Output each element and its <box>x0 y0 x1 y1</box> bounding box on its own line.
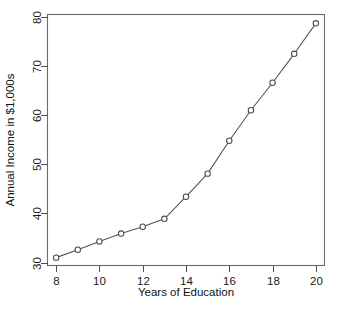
line-chart: 8101214161820 304050607080 Years of Educ… <box>0 0 345 311</box>
x-tick-label: 20 <box>310 275 323 287</box>
data-point-marker <box>248 108 253 113</box>
y-tick-label: 80 <box>31 11 43 24</box>
plot-frame <box>48 15 325 266</box>
x-axis-tick-labels: 8101214161820 <box>53 275 323 287</box>
data-point-marker <box>118 231 123 236</box>
y-axis-title: Annual Income in $1,000s <box>4 73 16 206</box>
y-tick-label: 50 <box>31 158 43 171</box>
data-point-marker <box>270 80 275 85</box>
y-axis-tick-labels: 304050607080 <box>31 11 43 270</box>
data-point-marker <box>292 51 297 56</box>
data-point-marker <box>205 171 210 176</box>
data-point-marker <box>162 216 167 221</box>
x-tick-label: 10 <box>93 275 106 287</box>
data-point-marker <box>53 255 58 260</box>
data-point-marker <box>75 247 80 252</box>
x-tick-label: 12 <box>137 275 150 287</box>
x-axis-title: Years of Education <box>138 286 234 298</box>
data-point-marker <box>97 239 102 244</box>
y-tick-label: 40 <box>31 207 43 220</box>
y-tick-label: 70 <box>31 60 43 73</box>
data-point-marker <box>183 194 188 199</box>
data-point-marker <box>313 21 318 26</box>
chart-figure: 8101214161820 304050607080 Years of Educ… <box>0 0 345 311</box>
x-tick-label: 16 <box>223 275 236 287</box>
y-tick-label: 60 <box>31 109 43 122</box>
x-tick-label: 18 <box>267 275 280 287</box>
x-tick-label: 8 <box>53 275 59 287</box>
data-point-marker <box>140 224 145 229</box>
y-axis-ticks <box>41 18 48 264</box>
data-point-marker <box>227 138 232 143</box>
x-axis-ticks <box>57 266 317 273</box>
y-tick-label: 30 <box>31 257 43 270</box>
x-tick-label: 14 <box>180 275 193 287</box>
